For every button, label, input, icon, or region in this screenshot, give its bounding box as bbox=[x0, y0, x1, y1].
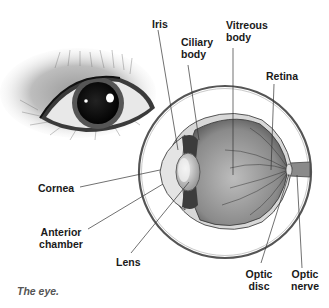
label-anterior-chamber: Anterior chamber bbox=[36, 226, 86, 250]
label-anterior-line1: Anterior bbox=[36, 226, 86, 238]
label-ciliary-line2: body bbox=[181, 48, 213, 60]
label-iris: Iris bbox=[152, 18, 168, 30]
eye-diagram: Iris Ciliary body Vitreous body Retina C… bbox=[0, 0, 329, 308]
label-anterior-line2: chamber bbox=[36, 238, 86, 250]
label-optic-disc: Optic disc bbox=[239, 268, 279, 292]
label-optic-disc-line1: Optic bbox=[239, 268, 279, 280]
label-ciliary-line1: Ciliary bbox=[181, 36, 213, 48]
label-optic-nerve: Optic nerve bbox=[285, 268, 325, 292]
label-lens: Lens bbox=[116, 256, 141, 268]
figure-caption: The eye. bbox=[17, 285, 59, 297]
label-vitreous-line1: Vitreous bbox=[226, 19, 268, 31]
external-eye-illustration bbox=[0, 48, 156, 140]
label-cornea: Cornea bbox=[38, 182, 74, 194]
label-ciliary-body: Ciliary body bbox=[181, 36, 213, 60]
label-retina: Retina bbox=[266, 70, 298, 82]
label-vitreous-body: Vitreous body bbox=[226, 19, 268, 43]
label-vitreous-line2: body bbox=[226, 31, 268, 43]
label-optic-nerve-line2: nerve bbox=[285, 280, 325, 292]
label-optic-nerve-line1: Optic bbox=[285, 268, 325, 280]
label-optic-disc-line2: disc bbox=[239, 280, 279, 292]
